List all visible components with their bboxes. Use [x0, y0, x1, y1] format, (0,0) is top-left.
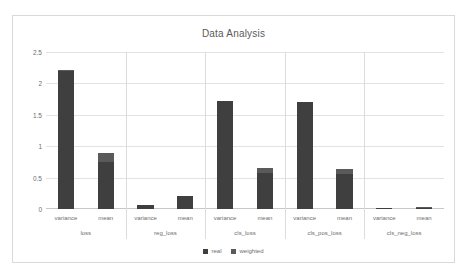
bar-segment-real[interactable] [336, 174, 352, 209]
bar-groups [46, 52, 444, 209]
bar-slot [88, 52, 123, 209]
bar[interactable] [58, 70, 74, 209]
subcategory-group: variancemean [285, 210, 365, 226]
bar-segment-weighted[interactable] [98, 153, 114, 162]
legend-item[interactable]: weighted [231, 248, 263, 254]
bar-slot [407, 52, 442, 209]
y-axis-tick-label: 2 [38, 80, 42, 87]
bar-slot [208, 52, 243, 209]
subcategory-group: variancemean [46, 210, 126, 226]
bar-segment-real[interactable] [257, 173, 273, 209]
legend-item[interactable]: real [203, 248, 221, 254]
y-axis-tick-label: 2.5 [33, 49, 42, 56]
bar[interactable] [217, 101, 233, 209]
x-axis-group-label: cls_neg_loss [364, 226, 444, 243]
bar-group [126, 52, 206, 209]
bar[interactable] [137, 205, 153, 209]
bar-group [364, 52, 444, 209]
bar[interactable] [297, 102, 313, 209]
x-axis-subcategory-label: mean [168, 215, 203, 221]
y-axis-tick-label: 0.5 [33, 174, 42, 181]
bar-segment-real[interactable] [137, 205, 153, 209]
legend-label: weighted [239, 248, 263, 254]
bar-slot [287, 52, 322, 209]
x-axis-subcategory-label: mean [327, 215, 362, 221]
x-axis-group-label: reg_loss [126, 226, 206, 243]
x-axis-subcategory-label: mean [407, 215, 442, 221]
legend-swatch-icon [231, 249, 236, 254]
x-axis-group-label: cls_pos_loss [285, 226, 365, 243]
x-axis-subcategory-label: mean [247, 215, 282, 221]
chart-title: Data Analysis [13, 28, 454, 39]
subcategory-group: variancemean [205, 210, 285, 226]
legend-swatch-icon [203, 249, 208, 254]
y-axis-tick-label: 1.5 [33, 111, 42, 118]
x-axis-group-label: cls_loss [205, 226, 285, 243]
subcategory-group: variancemean [126, 210, 206, 226]
bar-group [205, 52, 285, 209]
bar-segment-real[interactable] [177, 196, 193, 209]
bar[interactable] [98, 153, 114, 209]
bar-slot [327, 52, 362, 209]
chart-legend[interactable]: realweighted [13, 248, 454, 254]
group-axis-labels: lossreg_losscls_losscls_pos_losscls_neg_… [46, 226, 444, 243]
bar-slot [128, 52, 163, 209]
subcategory-group: variancemean [364, 210, 444, 226]
bar-slot [48, 52, 83, 209]
plot-area: 2.521.510.50 [46, 52, 444, 209]
bar[interactable] [177, 196, 193, 209]
bar[interactable] [257, 168, 273, 209]
x-axis-group-label: loss [46, 226, 126, 243]
bar[interactable] [376, 208, 392, 209]
bar[interactable] [416, 207, 432, 209]
x-axis-subcategory-label: mean [88, 215, 123, 221]
x-axis-subcategory-label: variance [48, 215, 83, 221]
x-axis-subcategory-label: variance [208, 215, 243, 221]
x-axis-subcategory-label: variance [287, 215, 322, 221]
subcategory-axis-labels: variancemeanvariancemeanvariancemeanvari… [46, 210, 444, 226]
y-axis-tick-label: 0 [38, 206, 42, 213]
bar-slot [168, 52, 203, 209]
bar-slot [367, 52, 402, 209]
bar-slot [247, 52, 282, 209]
bar-segment-real[interactable] [58, 71, 74, 209]
bar-group [285, 52, 365, 209]
y-axis-tick-label: 1 [38, 143, 42, 150]
bar-segment-real[interactable] [98, 162, 114, 209]
screenshot-root: Data Analysis 2.521.510.50 variancemeanv… [0, 0, 468, 278]
bar-segment-real[interactable] [297, 102, 313, 209]
x-axis-subcategory-label: variance [128, 215, 163, 221]
legend-label: real [211, 248, 221, 254]
bar-group [46, 52, 126, 209]
bar-segment-real[interactable] [376, 208, 392, 209]
bar-segment-real[interactable] [416, 208, 432, 209]
bar-segment-real[interactable] [217, 101, 233, 209]
bar[interactable] [336, 169, 352, 209]
chart-container[interactable]: Data Analysis 2.521.510.50 variancemeanv… [12, 15, 455, 263]
x-axis-subcategory-label: variance [367, 215, 402, 221]
